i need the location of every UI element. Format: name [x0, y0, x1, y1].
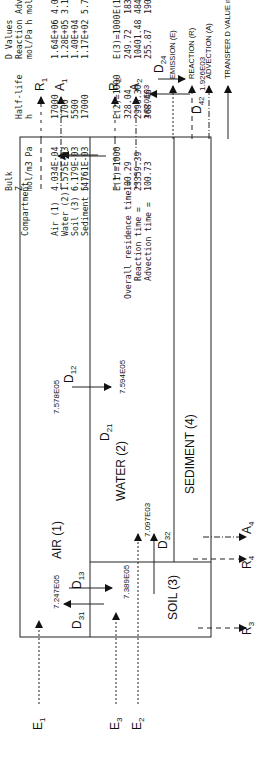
compartment-label-water: WATER (2)	[114, 441, 128, 501]
legend-emission-label: EMISSION (E)	[168, 30, 177, 79]
legend-transfer-label: TRANSFER D VALUE mol/Pa h	[223, 0, 232, 79]
emission-label-3: E3	[108, 718, 124, 730]
table-header-reaction-1: Reaction	[14, 20, 24, 59]
transfer-label-d24: D24	[152, 55, 168, 73]
reaction-label-4: R4	[240, 556, 256, 569]
transfer-value-d32: 7.097E03	[143, 503, 152, 537]
transfer-label-d21: D21	[98, 423, 114, 441]
table-header-halflife-1: Half-life	[14, 75, 24, 119]
emission-label-2: E2	[130, 718, 146, 730]
table-header-advection-1: Advection	[14, 0, 24, 14]
table-header-halflife-2: h	[24, 114, 34, 119]
table-header-z-1: Bulk	[4, 171, 14, 191]
transfer-label-d31: D31	[70, 611, 86, 629]
transfer-label-d42: D42	[190, 96, 206, 114]
table-header-z-3: mol/m3 Pa	[24, 147, 34, 191]
transfer-label-d12: D12	[62, 365, 78, 383]
residence-header-e3: E(3)=1000	[112, 15, 122, 59]
transfer-value-d12: 7.594E05	[118, 360, 127, 394]
compartment-label-air: AIR (1)	[50, 521, 64, 559]
residence-header-e1: E(1)=1000	[112, 147, 122, 191]
residence-header-e123: E(1,2,3)	[112, 0, 122, 14]
table-group-header: D Values	[4, 20, 14, 59]
transfer-value-d13: 7.389E05	[122, 565, 131, 599]
transfer-value-d31: 7.247E05	[52, 575, 61, 609]
transfer-label-d13: D13	[70, 571, 86, 589]
advection-label-1: A1	[53, 79, 69, 91]
residence-header-e2: E(2)=1000	[112, 75, 122, 119]
reaction-label-3: R3	[240, 622, 256, 635]
legend-advection-label: ADVECTION (A)	[204, 23, 213, 79]
table-header-z-2: Z	[14, 186, 24, 191]
emission-label-1: E1	[31, 718, 47, 730]
table-header-reaction-2: mol/Pa h	[24, 20, 34, 59]
transfer-value-d21: 7.578E05	[52, 380, 61, 414]
table-header-advection-2: mol/Pa h	[24, 0, 34, 14]
fugacity-diagram-page: AIR (1) WATER (2) SOIL (3) SEDIMENT (4) …	[0, 0, 267, 759]
transfer-label-d32: D32	[156, 531, 172, 549]
compartment-label-sediment: SEDIMENT (4)	[183, 414, 197, 494]
legend-reaction-label: REACTION (R)	[187, 28, 196, 79]
advection-label-4: A4	[240, 522, 256, 534]
reaction-label-1: R1	[33, 78, 49, 91]
compartment-label-soil: SOIL (3)	[166, 575, 180, 620]
